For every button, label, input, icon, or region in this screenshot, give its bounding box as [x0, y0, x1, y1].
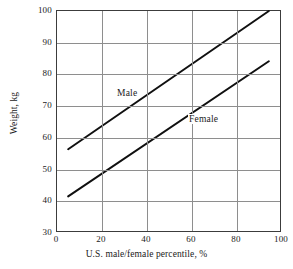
gridline-horizontal [57, 170, 280, 171]
series-lines [57, 11, 280, 231]
gridline-horizontal [57, 74, 280, 75]
gridline-horizontal [57, 201, 280, 202]
y-tick-label: 50 [43, 164, 52, 173]
series-label-female: Female [188, 114, 220, 124]
gridline-vertical [102, 11, 103, 231]
x-tick-label: 100 [274, 234, 288, 244]
y-tick-label: 30 [43, 228, 52, 237]
y-tick-label: 100 [38, 6, 52, 15]
plot-area: MaleFemale [56, 10, 281, 232]
x-axis-tick-labels: 020406080100 [56, 234, 281, 248]
series-label-male: Male [116, 88, 139, 98]
y-tick-label: 80 [43, 69, 52, 78]
y-tick-label: 60 [43, 132, 52, 141]
gridline-horizontal [57, 138, 280, 139]
weight-percentile-chart: Weight, kg 10090807060504030 MaleFemale … [0, 0, 293, 269]
y-tick-label: 90 [43, 37, 52, 46]
gridline-vertical [237, 11, 238, 231]
y-axis-tick-labels: 10090807060504030 [18, 10, 54, 232]
x-tick-label: 40 [141, 234, 150, 244]
gridline-horizontal [57, 106, 280, 107]
x-tick-label: 60 [186, 234, 195, 244]
gridline-horizontal [57, 43, 280, 44]
x-tick-label: 0 [54, 234, 59, 244]
x-tick-label: 20 [96, 234, 105, 244]
x-axis-title: U.S. male/female percentile, % [0, 249, 293, 259]
gridline-vertical [147, 11, 148, 231]
y-tick-label: 40 [43, 196, 52, 205]
y-tick-label: 70 [43, 101, 52, 110]
x-tick-label: 80 [231, 234, 240, 244]
